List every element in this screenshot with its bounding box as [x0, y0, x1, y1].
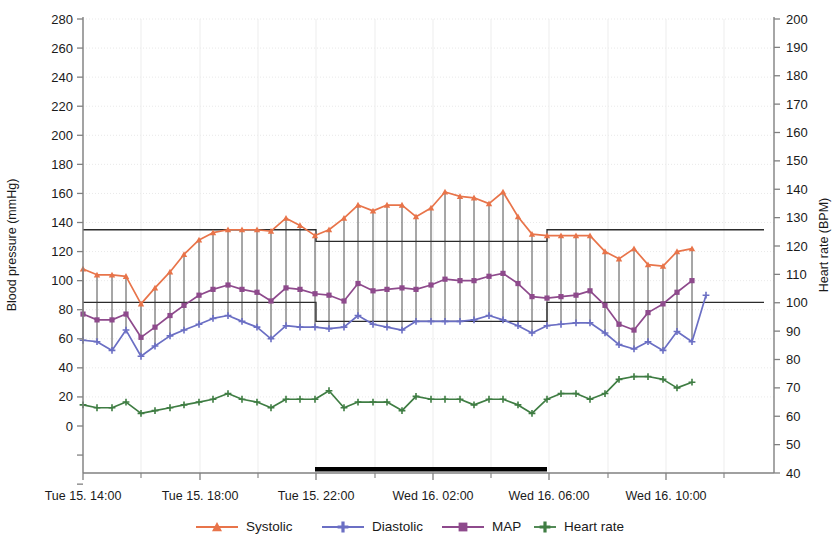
data-point: [297, 287, 302, 292]
data-point: [268, 298, 273, 303]
y-tick-label: 100: [51, 273, 73, 288]
y-tick-label-right: 170: [786, 97, 808, 112]
y-tick-label: 60: [59, 331, 73, 346]
data-point: [428, 282, 433, 287]
y-tick-label: 240: [51, 70, 73, 85]
data-point: [283, 285, 288, 290]
data-point: [631, 327, 636, 332]
legend-marker-square-icon: [459, 523, 468, 532]
data-point: [645, 310, 650, 315]
y-tick-label-right: 140: [786, 182, 808, 197]
y-tick-label-right: 50: [786, 437, 800, 452]
y-tick-label: 260: [51, 41, 73, 56]
data-point: [326, 293, 331, 298]
data-point: [239, 287, 244, 292]
data-point: [486, 274, 491, 279]
legend-label: MAP: [492, 519, 521, 534]
data-point: [500, 271, 505, 276]
data-point: [529, 294, 534, 299]
data-point: [225, 282, 230, 287]
y-tick-label: 160: [51, 186, 73, 201]
y-tick-label-right: 130: [786, 210, 808, 225]
y-tick-label: 120: [51, 244, 73, 259]
y-tick-label: 40: [59, 360, 73, 375]
data-point: [94, 317, 99, 322]
x-tick-label: Wed 16. 02:00: [392, 489, 473, 503]
y-tick-label: 220: [51, 99, 73, 114]
y-tick-label: 180: [51, 157, 73, 172]
y-axis-title-right: Heart rate (BPM): [817, 198, 831, 292]
data-point: [442, 277, 447, 282]
y-tick-label-right: 150: [786, 153, 808, 168]
data-point: [138, 335, 143, 340]
legend-label: Diastolic: [372, 519, 423, 534]
y-tick-label: 80: [59, 302, 73, 317]
data-point: [544, 295, 549, 300]
data-point: [355, 281, 360, 286]
night-period-bar: [315, 467, 547, 472]
data-point: [384, 287, 389, 292]
y-tick-label: 20: [59, 389, 73, 404]
y-tick-label-right: 90: [786, 324, 800, 339]
data-point: [312, 291, 317, 296]
y-tick-label: 140: [51, 215, 73, 230]
x-tick-label: Tue 15. 22:00: [278, 489, 355, 503]
data-point: [573, 293, 578, 298]
data-point: [123, 311, 128, 316]
y-tick-label: 200: [51, 128, 73, 143]
data-point: [167, 313, 172, 318]
chart-canvas: 020406080100120140160180200220240260280 …: [0, 0, 838, 541]
y-tick-label-right: 70: [786, 380, 800, 395]
data-point: [413, 287, 418, 292]
y-tick-label-right: 200: [786, 12, 808, 27]
data-point: [515, 281, 520, 286]
x-tick-label: Wed 16. 10:00: [625, 489, 706, 503]
data-point: [457, 278, 462, 283]
data-point: [399, 285, 404, 290]
data-point: [370, 288, 375, 293]
data-point: [616, 322, 621, 327]
y-tick-label-right: 100: [786, 295, 808, 310]
legend-label: Heart rate: [564, 519, 624, 534]
y-tick-label-right: 120: [786, 239, 808, 254]
y-axis-title-left: Blood pressure (mmHg): [5, 179, 19, 312]
data-point: [558, 294, 563, 299]
y-tick-label-right: 110: [786, 267, 807, 282]
data-point: [674, 290, 679, 295]
x-tick-label: Tue 15. 14:00: [45, 489, 122, 503]
data-point: [341, 298, 346, 303]
chart-background: [0, 0, 838, 541]
data-point: [602, 303, 607, 308]
y-tick-label-right: 180: [786, 68, 808, 83]
data-point: [196, 293, 201, 298]
night-period-bar: [315, 467, 547, 472]
data-point: [660, 301, 665, 306]
data-point: [689, 278, 694, 283]
data-point: [210, 287, 215, 292]
y-tick-label-right: 190: [786, 40, 808, 55]
x-tick-label: Wed 16. 06:00: [508, 489, 589, 503]
y-tick-label: 0: [66, 419, 73, 434]
y-tick-label-right: 160: [786, 125, 808, 140]
x-tick-label: Tue 15. 18:00: [162, 489, 239, 503]
data-point: [587, 288, 592, 293]
data-point: [109, 317, 114, 322]
data-point: [471, 278, 476, 283]
data-point: [181, 303, 186, 308]
y-tick-label-right: 60: [786, 409, 800, 424]
y-tick-label: 280: [51, 12, 73, 27]
y-tick-label-right: 40: [786, 466, 800, 481]
legend-label: Systolic: [246, 519, 293, 534]
blood-pressure-chart: 020406080100120140160180200220240260280 …: [0, 0, 838, 541]
data-point: [254, 290, 259, 295]
data-point: [152, 325, 157, 330]
y-tick-label-right: 80: [786, 352, 800, 367]
